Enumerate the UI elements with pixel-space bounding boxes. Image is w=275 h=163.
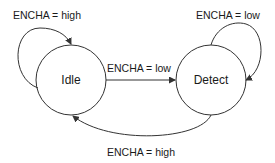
state-idle[interactable]: Idle (36, 45, 106, 115)
transition-label-detect-to-idle: ENCHA = high (107, 146, 175, 158)
self-loop-arrow-detect (211, 23, 261, 80)
transition-label-detect-self: ENCHA = low (196, 9, 260, 21)
state-detect[interactable]: Detect (176, 45, 246, 115)
transition-label-idle-self: ENCHA = high (13, 9, 81, 21)
state-label-detect: Detect (194, 73, 229, 87)
transition-label-idle-to-detect: ENCHA = low (107, 62, 171, 74)
state-diagram: ENCHA = high Idle ENCHA = low ENCHA = lo… (0, 0, 275, 163)
transition-idle-to-detect: ENCHA = low (106, 62, 175, 80)
transition-detect-self: ENCHA = low (196, 9, 261, 80)
transition-detect-to-idle: ENCHA = high (73, 115, 211, 158)
state-label-idle: Idle (61, 73, 81, 87)
arrow-detect-to-idle (73, 115, 211, 136)
